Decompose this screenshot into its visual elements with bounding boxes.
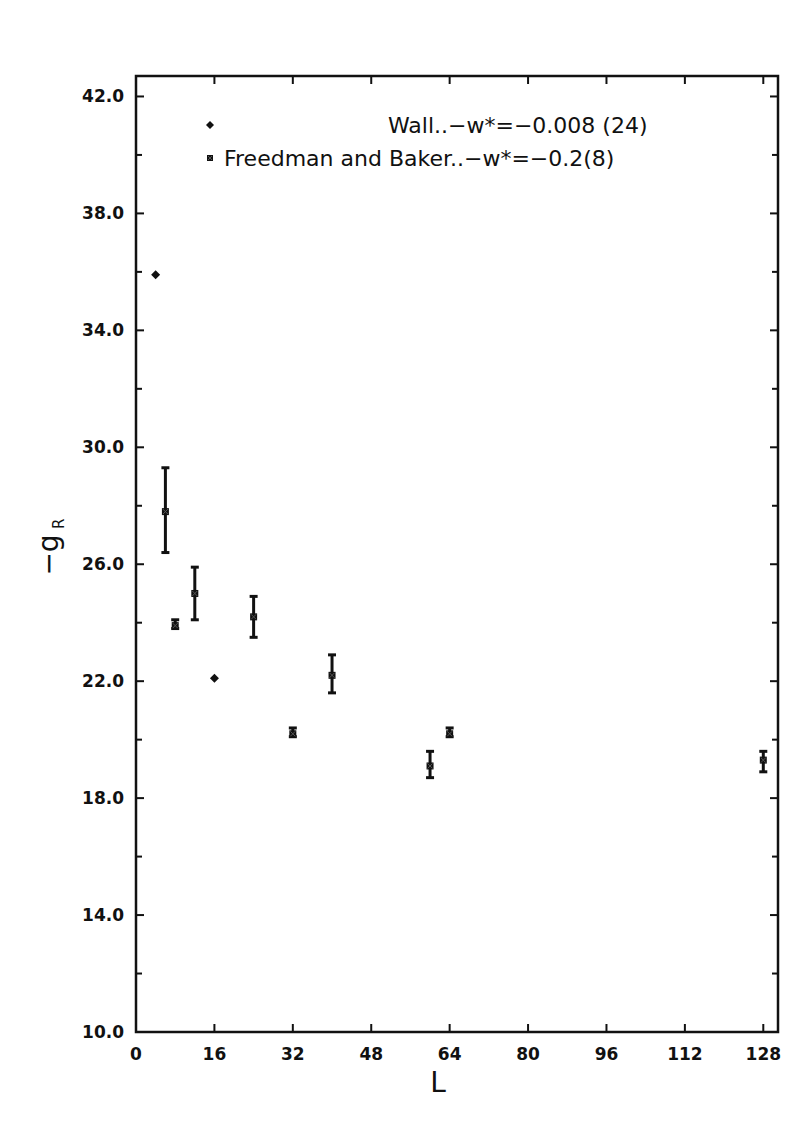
- legend-label-wall: Wall..−w*=−0.008 (24): [388, 113, 647, 138]
- data-point: [210, 674, 219, 683]
- data-series: [151, 270, 767, 777]
- x-tick-label: 48: [359, 1044, 383, 1064]
- y-axis-title: −g R: [32, 519, 68, 576]
- data-point: [759, 751, 767, 771]
- data-point: [446, 728, 454, 737]
- x-tick-label: 0: [130, 1044, 142, 1064]
- y-tick-label: 18.0: [82, 788, 124, 808]
- series-freedman-baker: [161, 468, 767, 778]
- data-point: [191, 567, 199, 620]
- x-tick-label: 80: [516, 1044, 540, 1064]
- x-axis-title: L: [430, 1066, 446, 1099]
- y-tick-label: 26.0: [82, 554, 124, 574]
- x-tick-label: 96: [595, 1044, 619, 1064]
- data-point: [161, 468, 169, 553]
- x-tick-label: 128: [746, 1044, 782, 1064]
- x-tick-label: 16: [203, 1044, 227, 1064]
- x-axis-ticks: 0163248648096112128: [130, 76, 781, 1064]
- data-point: [289, 728, 297, 737]
- y-axis-title-subscript: R: [50, 519, 68, 529]
- legend: Wall..−w*=−0.008 (24) Freedman and Baker…: [206, 113, 647, 171]
- y-tick-label: 34.0: [82, 320, 124, 340]
- y-tick-label: 38.0: [82, 203, 124, 223]
- scatter-chart: 10.014.018.022.026.030.034.038.042.0 016…: [0, 0, 810, 1144]
- legend-marker-x-box-icon: [207, 155, 213, 161]
- data-point: [328, 655, 336, 693]
- legend-marker-diamond-icon: [206, 121, 214, 129]
- data-point: [171, 620, 179, 629]
- series-wall: [151, 270, 219, 682]
- data-point: [151, 270, 160, 279]
- legend-label-freedman-baker: Freedman and Baker..−w*=−0.2(8): [224, 146, 614, 171]
- y-tick-label: 30.0: [82, 437, 124, 457]
- plot-frame: [136, 76, 778, 1032]
- data-point: [250, 596, 258, 637]
- y-tick-label: 10.0: [82, 1022, 124, 1042]
- y-tick-label: 22.0: [82, 671, 124, 691]
- y-tick-label: 14.0: [82, 905, 124, 925]
- y-tick-label: 42.0: [82, 86, 124, 106]
- data-point: [426, 751, 434, 777]
- x-tick-label: 64: [438, 1044, 462, 1064]
- x-tick-label: 32: [281, 1044, 305, 1064]
- y-axis-title-main: −g: [32, 534, 65, 575]
- y-axis-ticks: 10.014.018.022.026.030.034.038.042.0: [82, 86, 778, 1042]
- x-tick-label: 112: [667, 1044, 703, 1064]
